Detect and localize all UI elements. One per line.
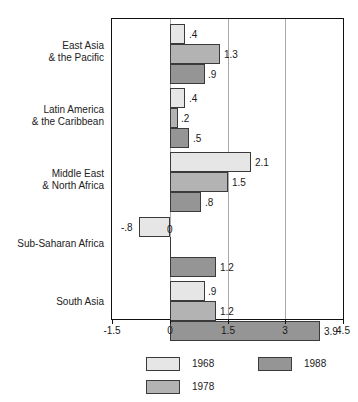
bar-value-middle-east-north-africa-1988: .8: [205, 198, 213, 208]
bar-east-asia-the-pacific-1978: [170, 44, 220, 64]
bar-value-latin-america-the-caribbean-1978: .2: [181, 114, 189, 124]
category-label-line1: South Asia: [0, 296, 104, 308]
x-tick-mark: [285, 320, 286, 324]
bar-middle-east-north-africa-1988: [170, 192, 201, 212]
category-label-south-asia: South Asia: [0, 296, 104, 308]
category-label-line1: Latin America: [0, 104, 104, 116]
category-label-middle-east: Middle East & North Africa: [0, 168, 104, 192]
x-tick-mark: [112, 320, 113, 324]
bar-value-sub-saharan-africa-1978: 0: [167, 225, 173, 235]
x-tick-label: 4.5: [336, 325, 350, 337]
bar-middle-east-north-africa-1968: [170, 152, 251, 172]
bar-value-latin-america-the-caribbean-1968: .4: [189, 94, 197, 104]
category-label-line2: & the Pacific: [0, 52, 104, 64]
category-axis-labels: East Asia & the Pacific Latin America & …: [0, 18, 108, 320]
bar-east-asia-the-pacific-1988: [170, 64, 205, 84]
bar-value-sub-saharan-africa-1968: -.8: [121, 223, 133, 233]
bar-sub-saharan-africa-1978: [170, 237, 171, 257]
bar-latin-america-the-caribbean-1988: [170, 128, 189, 148]
bar-sub-saharan-africa-1988: [170, 257, 216, 277]
x-tick-label: -1.5: [103, 325, 120, 337]
legend-label-1978: 1978: [192, 381, 214, 393]
bar-east-asia-the-pacific-1968: [170, 24, 185, 44]
x-tick-mark: [170, 320, 171, 324]
category-label-east-asia: East Asia & the Pacific: [0, 40, 104, 64]
bar-middle-east-north-africa-1978: [170, 172, 228, 192]
legend-swatch-1978: [146, 380, 180, 394]
bar-value-east-asia-the-pacific-1988: .9: [208, 70, 216, 80]
x-tick-label: 0: [167, 325, 173, 337]
bar-value-south-asia-1968: .9: [208, 287, 216, 297]
legend-item-1988: 1988: [258, 357, 326, 371]
bar-value-middle-east-north-africa-1978: 1.5: [232, 178, 246, 188]
x-tick-mark: [228, 320, 229, 324]
category-label-line2: & the Caribbean: [0, 116, 104, 128]
legend-swatch-1968: [146, 357, 180, 371]
legend-item-1978: 1978: [146, 380, 214, 394]
x-tick-label: 3: [282, 325, 288, 337]
bar-latin-america-the-caribbean-1968: [170, 88, 185, 108]
plot-inner: .41.3.9.4.2.52.11.5.8-.801.2.91.23.9: [112, 19, 343, 319]
legend-item-1968: 1968: [146, 357, 214, 371]
bar-south-asia-1978: [170, 301, 216, 321]
bar-value-east-asia-the-pacific-1978: 1.3: [224, 50, 238, 60]
category-label-line1: Middle East: [0, 168, 104, 180]
bar-chart: East Asia & the Pacific Latin America & …: [0, 0, 358, 402]
x-tick-mark: [343, 320, 344, 324]
bar-latin-america-the-caribbean-1978: [170, 108, 178, 128]
category-label-sub-saharan-africa: Sub-Saharan Africa: [0, 238, 104, 250]
category-label-line2: & North Africa: [0, 180, 104, 192]
category-label-line1: East Asia: [0, 40, 104, 52]
bar-value-latin-america-the-caribbean-1988: .5: [193, 134, 201, 144]
legend-label-1968: 1968: [192, 358, 214, 370]
legend-swatch-1988: [258, 357, 292, 371]
plot-area: .41.3.9.4.2.52.11.5.8-.801.2.91.23.9: [111, 18, 344, 320]
bar-value-sub-saharan-africa-1988: 1.2: [220, 263, 234, 273]
bar-value-south-asia-1978: 1.2: [220, 307, 234, 317]
gridline: [285, 19, 286, 319]
category-label-line1: Sub-Saharan Africa: [0, 238, 104, 250]
category-label-latin-america: Latin America & the Caribbean: [0, 104, 104, 128]
x-tick-label: 1.5: [221, 325, 235, 337]
x-axis: -1.501.534.5: [111, 320, 344, 342]
chart-legend: 1968 1988 1978: [146, 357, 358, 401]
bar-sub-saharan-africa-1968: [139, 217, 170, 237]
legend-label-1988: 1988: [304, 358, 326, 370]
bar-south-asia-1968: [170, 281, 205, 301]
bar-value-east-asia-the-pacific-1968: .4: [189, 30, 197, 40]
bar-value-middle-east-north-africa-1968: 2.1: [255, 158, 269, 168]
